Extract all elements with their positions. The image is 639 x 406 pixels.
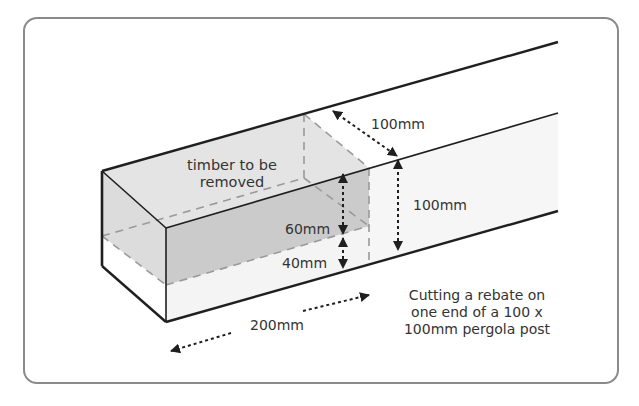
arrow-length-right [303, 295, 369, 311]
label-remaining: 40mm [282, 255, 327, 271]
label-rebate-depth: 60mm [285, 221, 330, 237]
label-removed-line1: timber to be [187, 157, 277, 173]
pergola-post-diagram: timber to be removed 100mm 100mm 60mm 40… [0, 0, 639, 406]
label-width-top: 100mm [371, 116, 425, 132]
caption-line1: Cutting a rebate on [409, 287, 545, 303]
label-removed-line2: removed [200, 174, 264, 190]
label-height-right: 100mm [413, 197, 467, 213]
caption-line2: one end of a 100 x [411, 304, 543, 320]
arrow-length-left [171, 333, 231, 351]
caption-line3: 100mm pergola post [404, 321, 551, 337]
label-length: 200mm [250, 317, 304, 333]
